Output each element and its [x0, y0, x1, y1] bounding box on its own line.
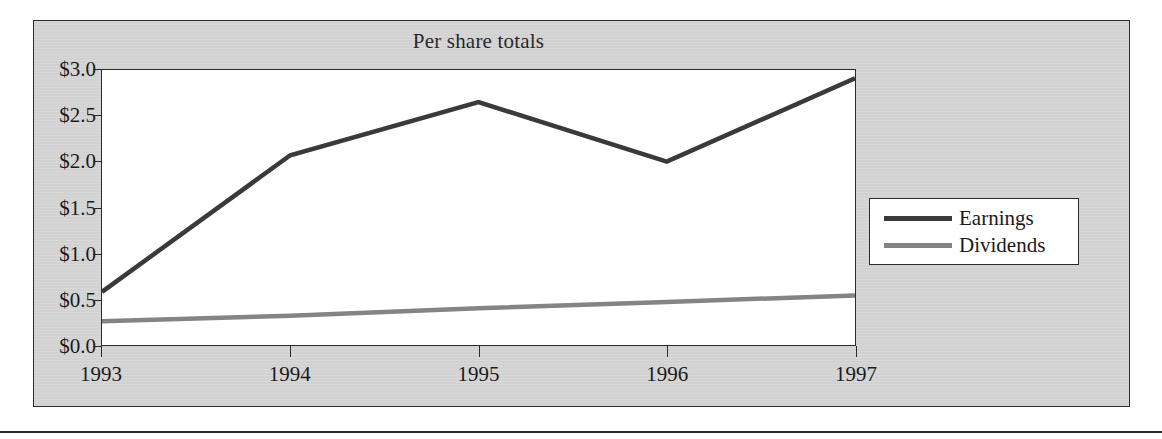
x-axis-tick-labels: 19931994199519961997 — [101, 362, 856, 398]
x-axis-tick-mark — [101, 346, 102, 357]
bottom-divider — [0, 431, 1162, 433]
y-axis-tick-mark — [93, 254, 102, 255]
legend-item-earnings: Earnings — [870, 205, 1078, 232]
legend-label-earnings: Earnings — [959, 208, 1034, 229]
y-axis-tick-mark — [93, 161, 102, 162]
y-axis-tick-label: $2.0 — [59, 149, 96, 174]
legend-label-dividends: Dividends — [959, 235, 1045, 256]
y-axis-tick-label: $1.5 — [59, 195, 96, 220]
chart-figure: Per share totals $3.0$2.5$2.0$1.5$1.0$0.… — [0, 0, 1162, 439]
x-axis-tick-label: 1996 — [646, 362, 688, 387]
series-line-dividends — [102, 296, 855, 322]
plot-area — [101, 69, 856, 346]
plot-lines — [102, 70, 855, 345]
legend-swatch-dividends — [884, 243, 952, 248]
x-axis-tick-mark — [856, 346, 857, 357]
chart-title: Per share totals — [101, 29, 856, 54]
legend-item-dividends: Dividends — [870, 232, 1078, 259]
y-axis-tick-mark — [93, 208, 102, 209]
chart-panel: Per share totals $3.0$2.5$2.0$1.5$1.0$0.… — [33, 20, 1130, 407]
x-axis-tick-mark — [479, 346, 480, 357]
legend-swatch-earnings — [884, 216, 952, 221]
x-axis-tick-mark — [290, 346, 291, 357]
x-axis-tick-mark — [667, 346, 668, 357]
chart-legend: Earnings Dividends — [869, 198, 1079, 265]
y-axis-tick-label: $0.5 — [59, 287, 96, 312]
y-axis-tick-mark — [93, 115, 102, 116]
x-axis-tick-marks — [101, 346, 856, 358]
y-axis-tick-labels: $3.0$2.5$2.0$1.5$1.0$0.5$0.0 — [34, 69, 96, 346]
y-axis-tick-mark — [93, 300, 102, 301]
y-axis-tick-label: $2.5 — [59, 103, 96, 128]
y-axis-tick-label: $3.0 — [59, 57, 96, 82]
y-axis-tick-label: $1.0 — [59, 241, 96, 266]
x-axis-tick-label: 1997 — [835, 362, 877, 387]
y-axis-tick-marks — [93, 69, 103, 346]
series-line-earnings — [102, 78, 855, 292]
y-axis-tick-mark — [93, 69, 102, 70]
x-axis-tick-label: 1993 — [80, 362, 122, 387]
x-axis-tick-label: 1994 — [269, 362, 311, 387]
y-axis-tick-label: $0.0 — [59, 334, 96, 359]
x-axis-tick-label: 1995 — [458, 362, 500, 387]
